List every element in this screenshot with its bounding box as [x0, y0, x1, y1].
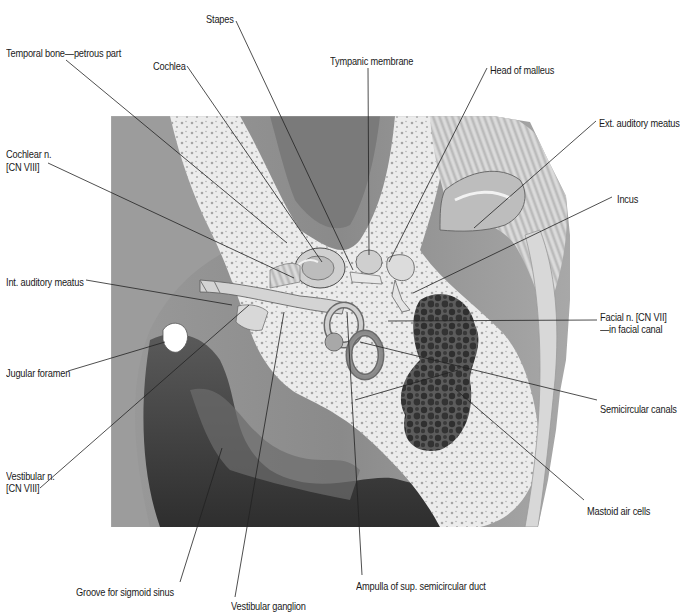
label-vestibular-n-cn: [CN VIII]: [6, 482, 39, 494]
label-cochlear-n: Cochlear n.: [6, 148, 51, 160]
label-ampulla: Ampulla of sup. semicircular duct: [356, 580, 486, 592]
label-incus: Incus: [617, 193, 638, 205]
label-cochlea: Cochlea: [153, 60, 186, 72]
label-facial-n: Facial n. [CN VII]: [600, 311, 667, 323]
label-tympanic-membrane: Tympanic membrane: [330, 55, 413, 67]
label-mastoid-air-cells: Mastoid air cells: [587, 505, 650, 517]
label-cochlear-n-cn: [CN VIII]: [6, 161, 39, 173]
label-jugular-foramen: Jugular foramen: [6, 367, 70, 379]
label-vestibular-n: Vestibular n.: [6, 470, 55, 482]
label-int-auditory-meatus: Int. auditory meatus: [6, 276, 84, 288]
label-semicircular-canals: Semicircular canals: [600, 403, 677, 415]
label-vestibular-ganglion: Vestibular ganglion: [231, 600, 306, 612]
label-head-of-malleus: Head of malleus: [490, 64, 554, 76]
label-groove-sigmoid-sinus: Groove for sigmoid sinus: [76, 586, 174, 598]
label-facial-canal: —in facial canal: [600, 323, 662, 335]
illustration-body: [111, 116, 571, 528]
label-temporal-bone-petrous: Temporal bone—petrous part: [6, 47, 121, 59]
label-stapes: Stapes: [206, 13, 234, 25]
label-ext-auditory-meatus: Ext. auditory meatus: [599, 117, 680, 129]
